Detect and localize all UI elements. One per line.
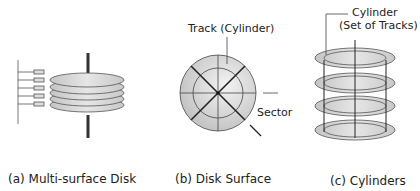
cylinder-label: Cylinder — [352, 6, 398, 19]
read-write-arms — [18, 60, 44, 124]
caption-b: (b) Disk Surface — [175, 172, 271, 186]
caption-c: (c) Cylinders — [330, 174, 406, 188]
cylinders — [315, 14, 395, 140]
disk-surface — [180, 37, 278, 136]
caption-a: (a) Multi-surface Disk — [8, 172, 136, 186]
cylinder-sublabel: (Set of Tracks) — [339, 19, 418, 32]
multi-surface-disk — [18, 53, 124, 138]
track-label: Track (Cylinder) — [188, 22, 274, 35]
sector-label: Sector — [257, 106, 292, 119]
platters — [50, 73, 124, 112]
